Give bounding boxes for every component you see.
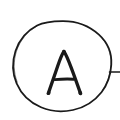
- schematic-symbol-svg: [0, 0, 120, 120]
- drawing-canvas: A: [0, 0, 120, 120]
